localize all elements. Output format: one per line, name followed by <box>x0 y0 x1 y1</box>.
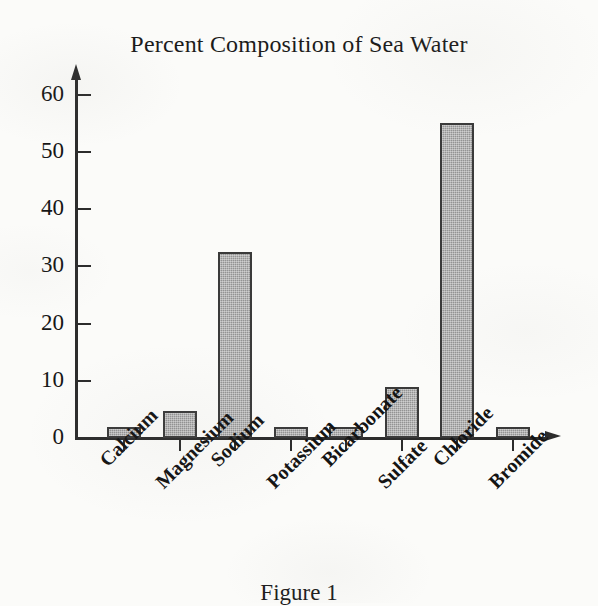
y-tick-mark <box>78 323 91 325</box>
chart-title: Percent Composition of Sea Water <box>0 31 598 58</box>
y-tick-label: 0 <box>53 424 65 450</box>
y-tick-label: 60 <box>41 81 64 107</box>
y-axis-arrow-icon <box>71 64 81 80</box>
plot-area: 0102030405060 <box>75 68 557 439</box>
y-tick-mark <box>78 208 91 210</box>
y-tick-label: 20 <box>41 309 64 335</box>
y-axis-line <box>75 78 78 439</box>
y-tick-mark <box>78 265 91 267</box>
y-tick-mark <box>78 380 91 382</box>
bar <box>440 123 474 438</box>
y-tick-mark <box>78 437 91 439</box>
y-tick-label: 30 <box>41 252 64 278</box>
y-tick-mark <box>78 151 91 153</box>
figure-caption: Figure 1 <box>0 580 598 606</box>
y-tick-label: 40 <box>41 195 64 221</box>
y-tick-mark <box>78 94 91 96</box>
y-tick-label: 50 <box>41 138 64 164</box>
bar <box>163 411 197 438</box>
y-tick-label: 10 <box>41 367 64 393</box>
